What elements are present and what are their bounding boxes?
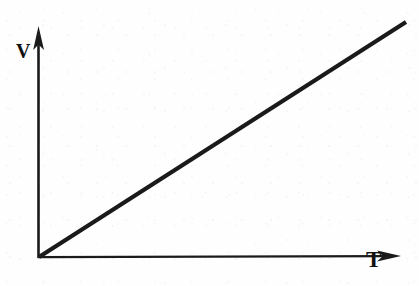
y-axis-label: V (16, 41, 30, 61)
data-line-v-vs-t (39, 22, 406, 257)
plot-area (0, 0, 419, 286)
figure-canvas: V T (0, 0, 419, 286)
x-axis-line (38, 256, 388, 257)
x-axis-label: T (366, 248, 381, 271)
